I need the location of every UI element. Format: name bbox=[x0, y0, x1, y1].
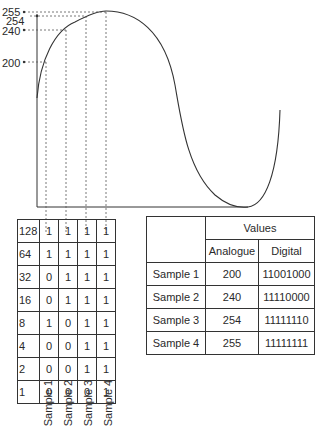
values-cell-label: Sample 3 bbox=[147, 309, 206, 332]
bit-cell: 0 bbox=[40, 335, 59, 358]
bit-col-label-1: Sample 1 bbox=[38, 372, 58, 434]
bit-weight: 32 bbox=[18, 266, 40, 289]
bit-row: 40011 bbox=[18, 335, 116, 358]
bit-weight: 128 bbox=[18, 220, 40, 243]
bit-cell: 0 bbox=[40, 289, 59, 312]
bit-col-label-2: Sample 2 bbox=[58, 372, 78, 434]
bit-cell: 0 bbox=[40, 266, 59, 289]
bit-cell: 1 bbox=[78, 243, 97, 266]
bit-cell: 1 bbox=[97, 243, 116, 266]
bit-row: 641111 bbox=[18, 243, 116, 266]
bit-weight: 16 bbox=[18, 289, 40, 312]
digital-header: Digital bbox=[259, 240, 315, 263]
bit-row: 1281111 bbox=[18, 220, 116, 243]
bit-cell: 0 bbox=[59, 335, 78, 358]
values-cell-analogue: 254 bbox=[206, 309, 259, 332]
bit-cell: 1 bbox=[97, 312, 116, 335]
bit-col-label-3: Sample 3 bbox=[78, 372, 98, 434]
values-row: Sample 325411111110 bbox=[147, 309, 315, 332]
bit-cell: 1 bbox=[40, 243, 59, 266]
bit-cell: 1 bbox=[78, 312, 97, 335]
bit-cell: 1 bbox=[59, 243, 78, 266]
bit-col-label-4: Sample 4 bbox=[98, 372, 118, 434]
bit-cell: 1 bbox=[78, 335, 97, 358]
analogue-header: Analogue bbox=[206, 240, 259, 263]
values-cell-label: Sample 1 bbox=[147, 263, 206, 286]
values-row: Sample 425511111111 bbox=[147, 332, 315, 355]
values-cell-analogue: 240 bbox=[206, 286, 259, 309]
values-cell-label: Sample 2 bbox=[147, 286, 206, 309]
bit-cell: 1 bbox=[78, 266, 97, 289]
values-cell-digital: 11111111 bbox=[259, 332, 315, 355]
bit-weight: 4 bbox=[18, 335, 40, 358]
values-row: Sample 120011001000 bbox=[147, 263, 315, 286]
values-cell-analogue: 200 bbox=[206, 263, 259, 286]
bit-cell: 1 bbox=[97, 266, 116, 289]
bit-cell: 1 bbox=[97, 220, 116, 243]
bit-cell: 0 bbox=[59, 312, 78, 335]
guide-lines bbox=[24, 12, 106, 233]
bit-row: 320111 bbox=[18, 266, 116, 289]
bit-weight: 8 bbox=[18, 312, 40, 335]
y-label-200: 200 bbox=[2, 58, 20, 69]
values-cell-digital: 11001000 bbox=[259, 263, 315, 286]
y-label-240: 240 bbox=[2, 26, 20, 37]
bit-cell: 1 bbox=[59, 266, 78, 289]
values-row: Sample 224011110000 bbox=[147, 286, 315, 309]
bit-weight: 2 bbox=[18, 358, 40, 381]
values-header: Values bbox=[206, 217, 315, 240]
bit-row: 160111 bbox=[18, 289, 116, 312]
values-cell-digital: 11110000 bbox=[259, 286, 315, 309]
bit-cell: 1 bbox=[59, 220, 78, 243]
bit-row: 81011 bbox=[18, 312, 116, 335]
bit-cell: 1 bbox=[78, 220, 97, 243]
values-cell-analogue: 255 bbox=[206, 332, 259, 355]
values-table: Values Analogue Digital Sample 120011001… bbox=[146, 216, 315, 355]
values-cell-label: Sample 4 bbox=[147, 332, 206, 355]
values-corner bbox=[147, 217, 206, 263]
bit-weight: 1 bbox=[18, 381, 40, 404]
bit-cell: 1 bbox=[78, 289, 97, 312]
bit-cell: 1 bbox=[59, 289, 78, 312]
bit-cell: 1 bbox=[97, 289, 116, 312]
values-cell-digital: 11111110 bbox=[259, 309, 315, 332]
bit-cell: 1 bbox=[40, 220, 59, 243]
bit-cell: 1 bbox=[97, 335, 116, 358]
bit-weight: 64 bbox=[18, 243, 40, 266]
analogue-wave bbox=[37, 11, 280, 207]
bit-cell: 1 bbox=[40, 312, 59, 335]
